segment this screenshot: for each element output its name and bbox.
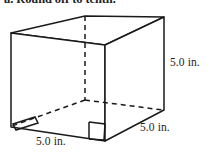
rectangular-prism-figure: [0, 0, 210, 155]
prism-front-left-face: [11, 33, 105, 141]
dimension-label-depth: 5.0 in.: [140, 121, 170, 133]
dimension-label-width: 5.0 in.: [36, 135, 66, 147]
dimension-label-height: 5.0 in.: [170, 56, 200, 68]
figure-page: a. Round off to tenth.: [0, 0, 210, 155]
